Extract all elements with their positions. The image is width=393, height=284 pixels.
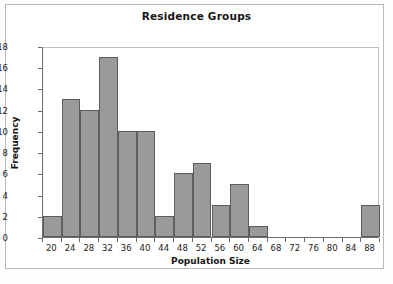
x-axis-tick-mark [211,238,212,242]
histogram-bar [80,110,99,237]
histogram-bar [62,99,81,237]
x-axis-tick-label: 88 [355,243,385,253]
y-axis-tick-label: 8 [0,148,8,158]
x-axis-tick-mark [267,238,268,242]
chart-title: Residence Groups [0,10,393,22]
x-axis-tick-mark [117,238,118,242]
histogram-figure: Residence Groups Frequency 0246810121416… [0,0,393,284]
y-axis-tick-label: 2 [0,212,8,222]
x-axis-label: Population Size [42,256,379,266]
x-axis-tick-mark [248,238,249,242]
bar-series [43,48,378,237]
y-axis-tick-label: 0 [0,233,8,243]
x-axis-tick-mark [173,238,174,242]
x-axis-tick-mark [154,238,155,242]
y-axis-tick-label: 12 [0,106,8,116]
x-axis-tick-mark [61,238,62,242]
histogram-bar [43,216,62,237]
y-axis-tick-label: 10 [0,127,8,137]
y-axis-tick-label: 4 [0,191,8,201]
x-axis-tick-mark [192,238,193,242]
x-axis-tick-mark [360,238,361,242]
x-axis-tick-mark [229,238,230,242]
x-axis-tick-mark [136,238,137,242]
histogram-bar [230,184,249,237]
histogram-bar [118,131,137,237]
plot-area [42,47,379,238]
x-axis-tick-mark [42,238,43,242]
histogram-bar [212,205,231,237]
x-axis-tick-mark [79,238,80,242]
x-axis-tick-mark [285,238,286,242]
y-axis-tick-label: 14 [0,84,8,94]
y-axis-label-text: Frequency [11,116,21,169]
histogram-bar [361,205,380,237]
y-axis-tick-label: 6 [0,169,8,179]
histogram-bar [99,57,118,237]
histogram-bar [174,173,193,237]
x-axis-tick-mark [304,238,305,242]
histogram-bar [137,131,156,237]
histogram-bar [155,216,174,237]
x-axis-tick-mark [98,238,99,242]
y-axis-tick-label: 16 [0,63,8,73]
x-axis-tick-mark [323,238,324,242]
histogram-bar [249,226,268,237]
x-axis-tick-mark [342,238,343,242]
x-axis-tick-mark [379,238,380,242]
y-axis-label: Frequency [9,47,22,238]
y-axis-tick-label: 18 [0,42,8,52]
histogram-bar [193,163,212,237]
